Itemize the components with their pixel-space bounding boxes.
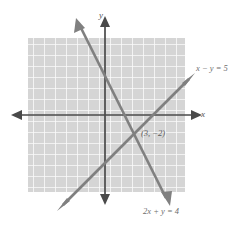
intersection-point-label: (3, −2) <box>141 129 165 138</box>
y-axis-down-arrow-icon <box>100 194 110 205</box>
x-axis-left-arrow-icon <box>11 110 22 120</box>
line2-lower-right-arrow-icon <box>161 191 172 206</box>
line1-equation-label: x − y = 5 <box>196 64 228 73</box>
graph-figure: x − y = 5 2x + y = 4 (3, −2) x y <box>0 0 245 227</box>
line2-equation-label: 2x + y = 4 <box>143 207 179 216</box>
line1-lower-left-arrow-icon <box>57 198 70 211</box>
y-axis-label: y <box>99 11 103 20</box>
x-axis-label: x <box>201 110 205 119</box>
coordinate-plane-svg <box>0 0 245 227</box>
